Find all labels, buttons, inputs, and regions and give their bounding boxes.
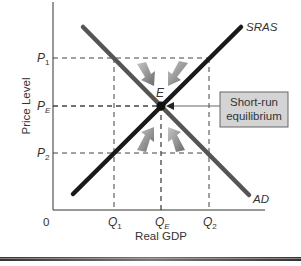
p1-label: P1 <box>37 51 50 67</box>
x-axis-title: Real GDP <box>135 230 187 242</box>
equilibrium-point <box>157 102 166 111</box>
q1-label: Q1 <box>108 215 122 231</box>
p2-label: P2 <box>37 146 50 162</box>
qe-label: QE <box>155 215 170 231</box>
pe-label: PE <box>37 99 51 115</box>
callout-line1: Short-run <box>230 96 278 108</box>
equilibrium-label: E <box>156 86 165 100</box>
bottom-rule <box>0 257 301 261</box>
sras-label: SRAS <box>246 21 278 33</box>
ad-label: AD <box>252 193 269 205</box>
ad-sras-diagram: E Short-run equilibrium SRAS AD P1 PE P2… <box>0 0 301 266</box>
callout-line2: equilibrium <box>226 110 282 122</box>
sras-curve <box>73 27 241 194</box>
q2-label: Q2 <box>203 215 217 231</box>
origin-label: 0 <box>43 216 49 228</box>
y-axis-title: Price Level <box>20 78 32 135</box>
